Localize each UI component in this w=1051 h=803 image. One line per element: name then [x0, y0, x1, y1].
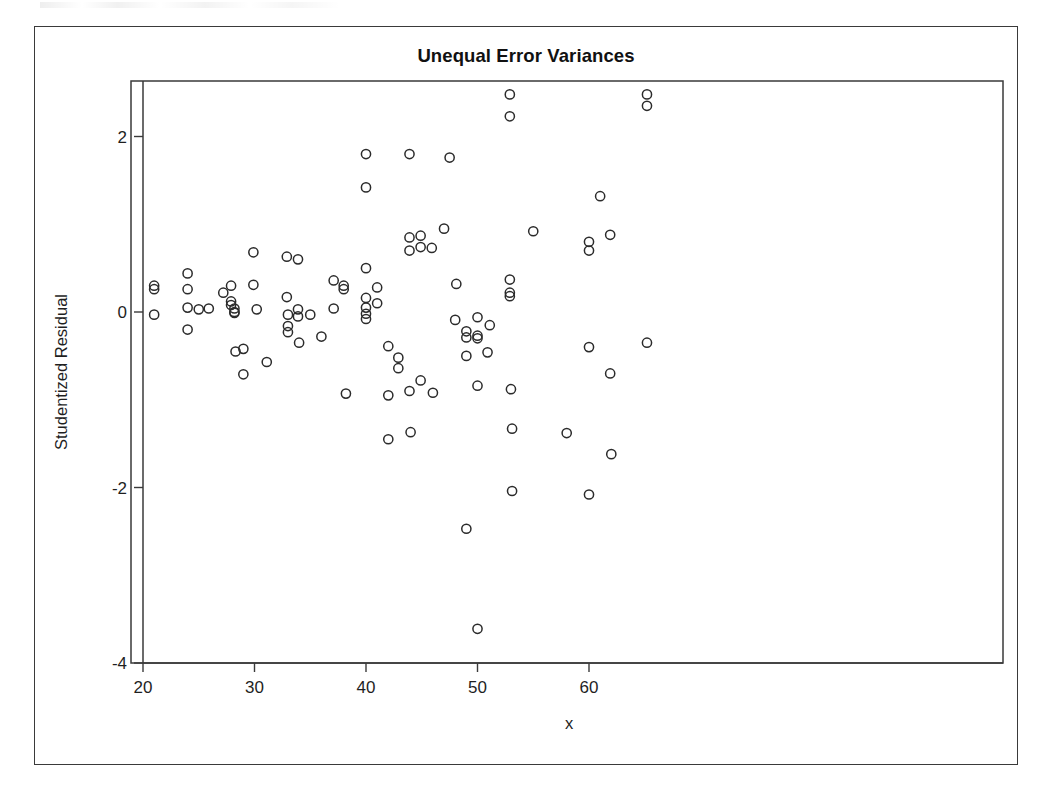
y-tick-label-0: 0 — [118, 303, 127, 322]
x-tick-label-50: 50 — [468, 678, 487, 697]
plot-area-border — [131, 81, 1003, 663]
figure-frame: Unequal Error Variances 2030405060 20-2-… — [34, 26, 1018, 765]
scatter-plot: 2030405060 20-2-4 x Studentized Residual — [35, 27, 1019, 766]
x-tick-label-20: 20 — [134, 678, 153, 697]
x-axis-title: x — [565, 714, 574, 732]
scan-artifact — [40, 2, 340, 8]
y-tick-label--4: -4 — [112, 654, 127, 673]
y-tick-label-2: 2 — [118, 128, 127, 147]
y-tick-label--2: -2 — [112, 479, 127, 498]
x-tick-label-40: 40 — [357, 678, 376, 697]
x-tick-label-30: 30 — [245, 678, 264, 697]
x-axis-tick-labels: 2030405060 — [134, 678, 599, 697]
x-tick-label-60: 60 — [580, 678, 599, 697]
y-axis-tick-labels: 20-2-4 — [112, 128, 127, 674]
y-axis-title: Studentized Residual — [52, 294, 70, 450]
x-axis-ticks — [143, 663, 589, 672]
